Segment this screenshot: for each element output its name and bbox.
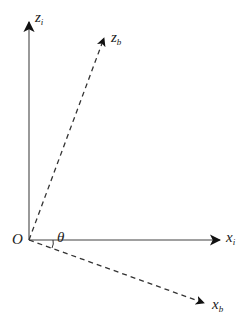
x-b-base: x [212,296,219,312]
x-b-label: xb [212,297,223,314]
z-b-label: zb [111,30,121,47]
origin-label: O [12,232,23,247]
x-i-base: x [226,229,233,245]
z-i-label: zi [35,10,43,27]
x-i-label: xi [226,230,235,247]
x-i-sub: i [233,237,236,247]
angle-arc [52,240,53,248]
theta-text: θ [57,229,64,245]
origin-text: O [12,231,23,247]
coordinate-frame-diagram: O zi zb xi xb θ [0,0,246,327]
z-i-sub: i [41,17,44,27]
axes-canvas [0,0,246,327]
z-b-sub: b [117,37,122,47]
z-b-axis [29,38,104,240]
x-b-sub: b [219,304,224,314]
theta-label: θ [57,230,64,245]
x-b-axis [29,240,204,303]
